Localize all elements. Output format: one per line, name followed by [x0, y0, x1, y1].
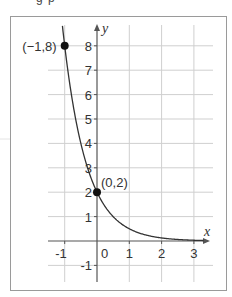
- x-tick-label: 3: [190, 246, 197, 261]
- y-tick-label: 5: [85, 112, 92, 127]
- x-tick-label: 2: [158, 246, 165, 261]
- y-axis-label: y: [100, 21, 109, 36]
- y-tick-label: 7: [85, 63, 92, 78]
- exponential-graph: xy -112345678-10123 (−1,8)(0,2): [0, 0, 232, 297]
- data-point: [93, 188, 101, 196]
- x-axis-label: x: [203, 224, 211, 239]
- y-tick-label: 4: [85, 136, 92, 151]
- data-point: [61, 42, 69, 50]
- y-tick-label: 1: [85, 210, 92, 225]
- y-tick-label: 8: [85, 39, 92, 54]
- point-label: (−1,8): [22, 39, 56, 54]
- y-tick-label: 2: [85, 185, 92, 200]
- y-tick-label: 6: [85, 88, 92, 103]
- x-tick-label: 1: [126, 246, 133, 261]
- x-tick-label: 0: [101, 246, 108, 261]
- y-tick-label: -1: [80, 258, 92, 273]
- point-label: (0,2): [101, 175, 128, 190]
- x-tick-label: -1: [55, 246, 67, 261]
